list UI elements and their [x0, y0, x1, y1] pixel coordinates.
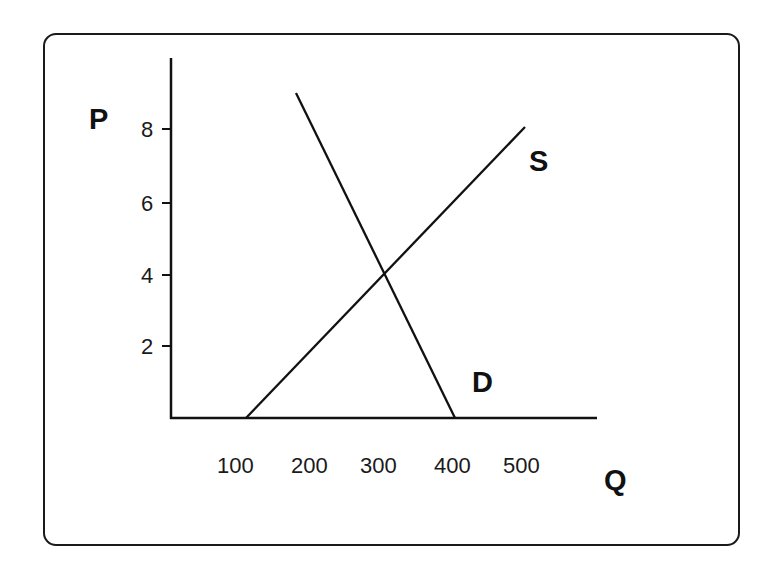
supply-demand-chart: 8 6 4 2 100 200 300 400 500 P Q S D — [0, 0, 780, 578]
x-tick-label-100: 100 — [217, 453, 254, 478]
supply-label: S — [529, 145, 548, 177]
x-tick-label-400: 400 — [434, 453, 471, 478]
demand-curve — [296, 93, 455, 418]
y-ticks — [162, 129, 171, 346]
demand-label: D — [472, 366, 493, 398]
x-axis-title: Q — [604, 464, 627, 496]
x-tick-label-200: 200 — [291, 453, 328, 478]
y-tick-label-8: 8 — [141, 117, 153, 142]
y-tick-label-4: 4 — [141, 263, 153, 288]
y-tick-label-2: 2 — [141, 334, 153, 359]
y-tick-label-6: 6 — [141, 191, 153, 216]
y-axis-title: P — [89, 103, 108, 135]
x-tick-label-500: 500 — [503, 453, 540, 478]
x-tick-label-300: 300 — [360, 453, 397, 478]
